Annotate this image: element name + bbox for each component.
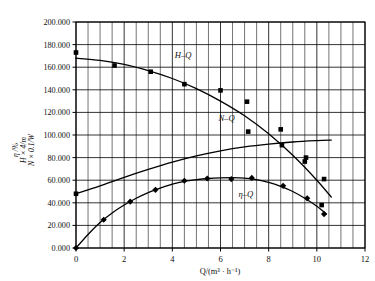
marker-eta-Q <box>204 175 210 181</box>
marker-N-Q <box>246 129 251 134</box>
x-axis-tick-labels: 024681012 <box>74 254 369 264</box>
curve-label-N-Q: N–Q <box>217 113 235 123</box>
x-tick-label: 4 <box>170 254 175 264</box>
marker-N-Q <box>74 191 79 196</box>
marker-H-Q <box>182 82 187 87</box>
marker-H-Q <box>245 99 250 104</box>
marker-H-Q <box>148 69 153 74</box>
x-axis-title: Q/(m³ · h⁻¹) <box>200 267 241 276</box>
y-tick-label: 80.000 <box>47 154 70 163</box>
y-tick-label: 140.000 <box>43 86 70 95</box>
x-tick-label: 10 <box>313 254 322 264</box>
x-tick-label: 2 <box>122 254 126 264</box>
curve-eta-Q <box>76 178 326 248</box>
marker-eta-Q <box>127 199 133 205</box>
marker-eta-Q <box>152 187 158 193</box>
data-point-markers <box>73 50 327 251</box>
chart-figure: 0.00020.00040.00060.00080.000100.000120.… <box>0 0 375 281</box>
y-axis-title: η /%H × 4/mN × 0.1/W <box>11 133 36 167</box>
y-tick-label: 120.000 <box>43 108 70 117</box>
y-axis-title-line: N × 0.1/W <box>27 133 36 167</box>
y-tick-label: 40.000 <box>47 199 70 208</box>
x-tick-label: 0 <box>74 254 78 264</box>
marker-N-Q <box>322 177 327 182</box>
marker-H-Q <box>278 127 283 132</box>
x-tick-label: 12 <box>361 254 370 264</box>
marker-N-Q <box>304 155 309 160</box>
marker-eta-Q <box>321 211 327 217</box>
marker-eta-Q <box>181 178 187 184</box>
y-tick-label: 0.000 <box>52 244 70 253</box>
marker-H-Q <box>319 203 324 208</box>
y-tick-label: 100.000 <box>43 131 70 140</box>
y-tick-label: 160.000 <box>43 63 70 72</box>
y-tick-label: 20.000 <box>47 221 70 230</box>
y-tick-label: 200.000 <box>43 18 70 27</box>
curve-label-eta-Q: η–Q <box>238 189 254 199</box>
pump-characteristic-chart: 0.00020.00040.00060.00080.000100.000120.… <box>0 0 375 281</box>
marker-H-Q <box>74 50 79 55</box>
x-tick-label: 8 <box>267 254 271 264</box>
y-tick-label: 60.000 <box>47 176 70 185</box>
y-tick-label: 180.000 <box>43 41 70 50</box>
curve-label-H-Q: H–Q <box>174 50 193 60</box>
x-tick-label: 6 <box>218 254 222 264</box>
y-axis-tick-labels: 0.00020.00040.00060.00080.000100.000120.… <box>43 18 70 253</box>
marker-H-Q <box>218 88 223 93</box>
marker-H-Q <box>302 159 307 164</box>
marker-H-Q <box>112 63 117 68</box>
marker-eta-Q <box>228 176 234 182</box>
marker-N-Q <box>280 143 285 148</box>
curve-series-labels: H–QN–Qη–Q <box>174 50 254 199</box>
